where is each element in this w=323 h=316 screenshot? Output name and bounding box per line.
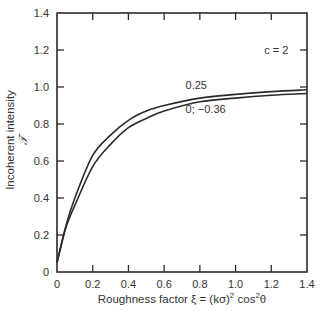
label-c-equals-2: c = 2 <box>264 44 288 56</box>
x-tick-labels: 00.20.40.60.81.01.21.4 <box>54 278 315 290</box>
y-tick-label: 1.4 <box>34 7 49 19</box>
curve-c-0-25 <box>57 90 307 263</box>
y-tick-label: 1.0 <box>34 81 49 93</box>
x-tick-label: 0.6 <box>156 278 171 290</box>
x-tick-label: 0 <box>54 278 60 290</box>
y-tick-label: 0.4 <box>34 192 49 204</box>
curve-c-0-neg-0-36 <box>57 93 307 262</box>
y-axis-title: Incoherent intensity 𝒯 <box>4 90 29 190</box>
x-tick-label: 0.8 <box>192 278 207 290</box>
y-tick-labels: 00.20.40.60.81.01.21.4 <box>34 7 49 278</box>
x-axis-title: Roughness factor ξ = (kσ)2 cos2θ <box>98 291 267 305</box>
x-tick-label: 0.4 <box>121 278 136 290</box>
x-tick-label: 1.4 <box>299 278 314 290</box>
svg-text:Incoherent intensity: Incoherent intensity <box>4 90 16 190</box>
curve-annotations: c = 20.250; −0.36 <box>186 44 289 115</box>
label-curve-0-25: 0.25 <box>186 79 207 91</box>
label-curve-0-neg-0-36: 0; −0.36 <box>186 103 226 115</box>
x-tick-label: 1.2 <box>264 278 279 290</box>
y-tick-label: 0 <box>43 266 49 278</box>
y-tick-label: 0.8 <box>34 118 49 130</box>
curves <box>57 90 307 263</box>
x-tick-label: 1.0 <box>228 278 243 290</box>
y-axis-symbol: 𝒯 <box>17 132 29 145</box>
y-tick-label: 0.2 <box>34 229 49 241</box>
chart: 00.20.40.60.81.01.21.4 00.20.40.60.81.01… <box>0 0 323 316</box>
y-tick-label: 1.2 <box>34 44 49 56</box>
y-tick-label: 0.6 <box>34 155 49 167</box>
x-tick-label: 0.2 <box>85 278 100 290</box>
